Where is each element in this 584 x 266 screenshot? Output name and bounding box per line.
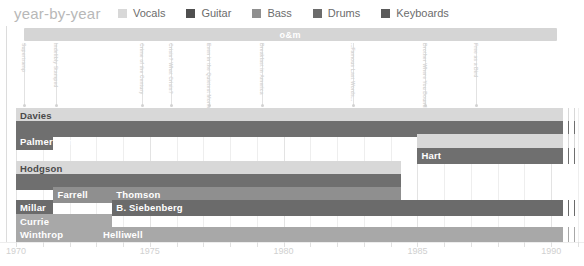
timeline-bar-label: Farrell <box>57 189 87 200</box>
timeline-bar-label: Thomson <box>116 189 160 200</box>
legend-swatch-icon <box>252 9 261 18</box>
album-marker[interactable]: Crime of the Century <box>142 43 143 105</box>
timeline-rows: DaviesPalmer-JamesHartHodgsonFarrellThom… <box>0 108 584 242</box>
album-marker-label: Free as a Bird <box>473 43 478 77</box>
x-axis-tick <box>230 242 231 247</box>
album-marker-label: Indelibly Stamped <box>53 43 58 88</box>
timeline-bar-label: Helliwell <box>103 229 143 240</box>
album-marker[interactable]: Supertramp <box>24 43 25 105</box>
x-axis-tick <box>257 242 258 247</box>
timeline-row: WinthropHelliwell <box>0 227 584 243</box>
x-axis-tick <box>498 242 499 247</box>
timeline-bar-label: Davies <box>20 110 52 121</box>
x-axis-tick <box>43 242 44 247</box>
x-axis-tick <box>444 242 445 247</box>
timeline-bar-continuation <box>562 227 578 243</box>
timeline-bar-label: Currie <box>20 216 49 227</box>
timeline-bar-label: Winthrop <box>20 229 63 240</box>
timeline-bar[interactable] <box>99 227 562 243</box>
album-marker-label: Supertramp <box>21 43 26 72</box>
album-marker-label: Breakfast in America <box>259 43 264 95</box>
album-marker[interactable]: Breakfast in America <box>262 43 263 105</box>
album-marker-dot-icon <box>141 104 144 107</box>
legend-item-drums: Drums <box>313 7 360 19</box>
x-axis-tick <box>96 242 97 247</box>
legend-item-bass: Bass <box>252 7 291 19</box>
album-marker[interactable]: Even in the Quietest Moments... <box>209 43 210 105</box>
legend-item-keyboards: Keyboards <box>381 7 449 19</box>
x-axis: 19701975198019851990 <box>0 242 584 266</box>
x-axis-tick <box>177 242 178 247</box>
album-marker-dot-icon <box>55 104 58 107</box>
legend-label: Bass <box>267 7 291 19</box>
x-axis-tick <box>310 242 311 247</box>
album-marker-label: Brother Where You Bound <box>422 43 427 108</box>
legend-swatch-icon <box>313 9 322 18</box>
timeline-bar-label: Millar <box>20 202 46 213</box>
x-axis-tick <box>391 242 392 247</box>
x-axis-label: 1990 <box>541 246 561 256</box>
legend-label: Guitar <box>201 7 231 19</box>
timeline-bar-label: Hodgson <box>20 163 63 174</box>
x-axis-tick <box>471 242 472 247</box>
timeline-bar-label: B. Siebenberg <box>116 202 182 213</box>
x-axis-label: 1980 <box>274 246 294 256</box>
legend-swatch-icon <box>186 9 195 18</box>
x-axis-tick <box>203 242 204 247</box>
album-marker-label: Crisis? What Crisis? <box>168 43 173 94</box>
legend-label: Drums <box>328 7 360 19</box>
album-marker-label: Crime of the Century <box>139 43 144 94</box>
legend-item-vocals: Vocals <box>118 7 165 19</box>
era-band: o&m <box>24 28 557 41</box>
legend: VocalsGuitarBassDrumsKeyboards <box>118 7 470 21</box>
x-axis-tick <box>70 242 71 247</box>
album-marker[interactable]: ...Famous Last Words... <box>353 43 354 105</box>
album-marker[interactable]: Indelibly Stamped <box>56 43 57 105</box>
x-axis-tick <box>578 242 579 247</box>
chart-header: year-by-year VocalsGuitarBassDrumsKeyboa… <box>0 0 584 26</box>
album-marker[interactable]: Brother Where You Bound <box>425 43 426 105</box>
album-marker[interactable]: Crisis? What Crisis? <box>171 43 172 105</box>
x-axis-tick <box>337 242 338 247</box>
album-marker[interactable]: Free as a Bird <box>476 43 477 105</box>
legend-swatch-icon <box>118 9 127 18</box>
legend-item-guitar: Guitar <box>186 7 231 19</box>
album-marker-dot-icon <box>208 104 211 107</box>
legend-label: Vocals <box>133 7 165 19</box>
legend-label: Keyboards <box>396 7 449 19</box>
album-marker-dot-icon <box>261 104 264 107</box>
album-marker-label: ...Famous Last Words... <box>350 43 355 101</box>
timeline-bar-label: Hart <box>421 150 441 161</box>
x-axis-label: 1975 <box>140 246 160 256</box>
album-marker-dot-icon <box>352 104 355 107</box>
era-band-label: o&m <box>280 30 302 40</box>
x-axis-tick <box>364 242 365 247</box>
x-axis-label: 1970 <box>6 246 26 256</box>
x-axis-tick <box>123 242 124 247</box>
album-marker-dot-icon <box>170 104 173 107</box>
page-title: year-by-year <box>14 5 101 22</box>
album-marker-dot-icon <box>475 104 478 107</box>
plot-area: o&m SupertrampIndelibly StampedCrime of … <box>0 26 584 266</box>
year-by-year-chart: year-by-year VocalsGuitarBassDrumsKeyboa… <box>0 0 584 266</box>
legend-swatch-icon <box>381 9 390 18</box>
x-axis-tick <box>524 242 525 247</box>
album-marker-dot-icon <box>23 104 26 107</box>
x-axis-label: 1985 <box>407 246 427 256</box>
axis-baseline <box>0 242 584 243</box>
